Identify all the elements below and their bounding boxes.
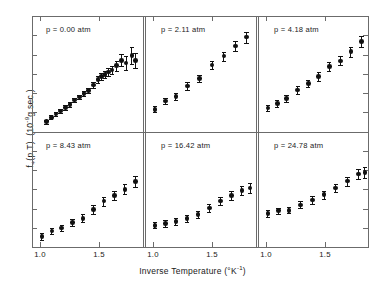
data-point-marker bbox=[316, 74, 321, 79]
error-bar-cap-top bbox=[349, 47, 353, 48]
data-point-marker bbox=[310, 198, 315, 203]
x-axis-tick-label: 1.5 bbox=[88, 250, 110, 259]
error-bar-cap-top bbox=[119, 54, 123, 55]
plot-panel: p = 0.00 atm bbox=[32, 16, 143, 132]
error-bar-cap-bottom bbox=[81, 222, 85, 223]
data-point-marker bbox=[81, 216, 86, 221]
data-point-marker bbox=[248, 186, 253, 191]
error-bar-cap-bottom bbox=[185, 90, 189, 91]
error-bar-cap-top bbox=[233, 41, 237, 42]
error-bar-cap-bottom bbox=[123, 194, 127, 195]
error-bar-cap-top bbox=[338, 56, 342, 57]
panel-grid: 1.01.51.01.51.01.5p = 0.00 atmp = 2.11 a… bbox=[32, 16, 369, 247]
error-bar-cap-bottom bbox=[363, 178, 367, 179]
data-point-marker bbox=[298, 203, 303, 208]
axis-frame-line bbox=[143, 16, 144, 247]
x-axis-title: Inverse Temperature (°K-1) bbox=[0, 265, 385, 276]
error-bar-cap-bottom bbox=[174, 225, 178, 226]
data-point-marker bbox=[123, 187, 128, 192]
error-bar-cap-bottom bbox=[244, 43, 248, 44]
error-bar-cap-bottom bbox=[240, 195, 244, 196]
panel-pressure-label: p = 24.78 atm bbox=[274, 141, 323, 150]
error-bar-cap-top bbox=[248, 183, 252, 184]
data-point-marker bbox=[218, 199, 223, 204]
data-point-marker bbox=[356, 172, 361, 177]
data-point-marker bbox=[124, 61, 129, 66]
data-point-marker bbox=[363, 170, 368, 175]
data-point-marker bbox=[133, 179, 138, 184]
data-point-marker bbox=[229, 193, 234, 198]
data-point-marker bbox=[349, 49, 354, 54]
plot-panel: p = 4.18 atm bbox=[258, 16, 369, 132]
error-bar-cap-top bbox=[112, 191, 116, 192]
error-bar-cap-bottom bbox=[91, 88, 95, 89]
error-bar-cap-top bbox=[133, 176, 137, 177]
data-point-marker bbox=[359, 39, 364, 44]
data-point-marker bbox=[207, 206, 212, 211]
error-bar-cap-bottom bbox=[124, 70, 128, 71]
error-bar-cap-bottom bbox=[218, 205, 222, 206]
error-bar-cap-bottom bbox=[276, 214, 280, 215]
error-bar-cap-bottom bbox=[119, 66, 123, 67]
error-bar-cap-top bbox=[130, 47, 134, 48]
error-bar-cap-top bbox=[345, 177, 349, 178]
data-point-marker bbox=[185, 216, 190, 221]
error-bar-cap-bottom bbox=[163, 104, 167, 105]
error-bar-cap-bottom bbox=[153, 228, 157, 229]
data-point-marker bbox=[333, 186, 338, 191]
error-bar-cap-bottom bbox=[248, 193, 252, 194]
error-bar-cap-bottom bbox=[345, 186, 349, 187]
data-point-marker bbox=[233, 44, 238, 49]
plot-panel: p = 16.42 atm bbox=[145, 132, 256, 248]
error-bar-cap-top bbox=[229, 191, 233, 192]
error-bar-cap-bottom bbox=[356, 179, 360, 180]
error-bar-cap-bottom bbox=[185, 222, 189, 223]
error-bar-cap-bottom bbox=[306, 87, 310, 88]
error-bar-cap-bottom bbox=[96, 83, 100, 84]
x-axis-tick-label: 1.0 bbox=[255, 250, 277, 259]
error-bar-cap-bottom bbox=[349, 57, 353, 58]
error-bar-cap-bottom bbox=[106, 76, 110, 77]
data-point-marker bbox=[153, 107, 158, 112]
error-bar-cap-bottom bbox=[60, 231, 64, 232]
data-point-marker bbox=[244, 35, 249, 40]
plot-panel: p = 2.11 atm bbox=[145, 16, 256, 132]
error-bar-cap-bottom bbox=[266, 111, 270, 112]
error-bar-cap-bottom bbox=[91, 214, 95, 215]
error-bar-cap-bottom bbox=[86, 93, 90, 94]
error-bar-cap-bottom bbox=[233, 51, 237, 52]
data-point-marker bbox=[174, 94, 179, 99]
data-point-marker bbox=[50, 229, 55, 234]
error-bar-cap-bottom bbox=[310, 204, 314, 205]
axis-frame-line bbox=[256, 16, 257, 247]
error-bar-cap-bottom bbox=[334, 192, 338, 193]
error-bar-cap-bottom bbox=[153, 112, 157, 113]
data-point-marker bbox=[284, 96, 289, 101]
x-axis-title-text: Inverse Temperature (°K bbox=[139, 266, 237, 276]
panel-pressure-label: p = 16.42 atm bbox=[161, 141, 210, 150]
error-bar-cap-bottom bbox=[197, 82, 201, 83]
x-axis-tick-label: 1.0 bbox=[29, 250, 51, 259]
data-point-marker bbox=[210, 63, 215, 68]
error-bar-cap-bottom bbox=[70, 226, 74, 227]
data-point-marker bbox=[338, 59, 343, 64]
error-bar-cap-bottom bbox=[133, 187, 137, 188]
data-point-marker bbox=[185, 84, 190, 89]
error-bar-cap-top bbox=[102, 197, 106, 198]
data-point-marker bbox=[91, 207, 96, 212]
error-bar-cap-bottom bbox=[54, 116, 58, 117]
data-point-marker bbox=[266, 211, 271, 216]
error-bar-cap-top bbox=[133, 53, 137, 54]
error-bar-cap-top bbox=[334, 184, 338, 185]
data-point-marker bbox=[119, 58, 124, 63]
error-bar-cap-bottom bbox=[207, 212, 211, 213]
data-point-marker bbox=[174, 219, 179, 224]
error-bar-cap-bottom bbox=[130, 64, 134, 65]
data-point-marker bbox=[240, 188, 245, 193]
error-bar-cap-bottom bbox=[222, 61, 226, 62]
error-bar-cap-bottom bbox=[210, 69, 214, 70]
data-point-marker bbox=[222, 54, 227, 59]
data-point-marker bbox=[130, 53, 135, 58]
error-bar-cap-top bbox=[240, 186, 244, 187]
error-bar-cap-bottom bbox=[284, 102, 288, 103]
